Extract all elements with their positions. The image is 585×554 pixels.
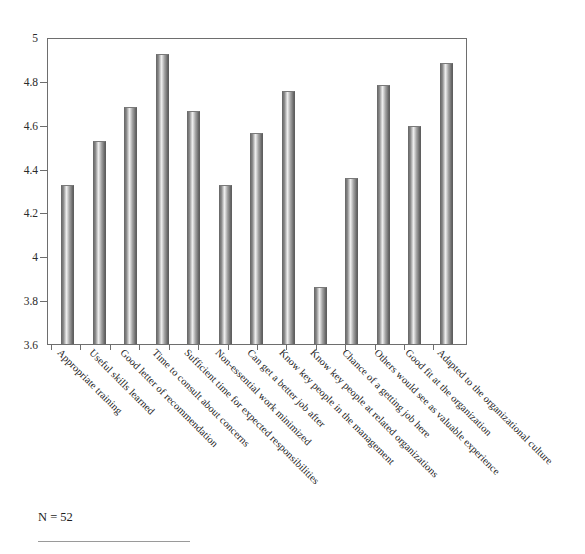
y-axis-tick-label: 4.6 (24, 119, 38, 133)
bar-slot (336, 39, 368, 344)
bars-layer (48, 39, 466, 344)
y-axis-tick-label: 4 (32, 250, 38, 264)
bar (345, 178, 358, 344)
bar-slot (210, 39, 242, 344)
x-axis-category-label: Know key people in the management (277, 347, 397, 467)
bar-slot (241, 39, 273, 344)
bar (124, 107, 137, 344)
bar-slot (304, 39, 336, 344)
bar (282, 91, 295, 344)
bar-slot (147, 39, 179, 344)
bar-chart-figure: 3.63.844.24.44.64.85 Appropriate trainin… (0, 0, 585, 554)
x-axis-labels: Appropriate trainingUseful skills learne… (47, 347, 527, 522)
bar (314, 287, 327, 344)
bar (250, 133, 263, 344)
bar (156, 54, 169, 344)
bar (440, 63, 453, 344)
y-axis-tick-mark (40, 301, 47, 302)
bar-slot (399, 39, 431, 344)
y-axis-tick-mark (40, 82, 47, 83)
y-axis-tick-mark (40, 213, 47, 214)
bar-slot (52, 39, 84, 344)
y-axis-tick-mark (40, 170, 47, 171)
x-axis-category-label: Adapted to the organizational culture (435, 347, 555, 467)
y-axis-tick-label: 3.8 (24, 294, 38, 308)
y-axis-tick-label: 3.6 (24, 338, 38, 352)
bar (408, 126, 421, 344)
bar (61, 185, 74, 344)
bar-slot (273, 39, 305, 344)
y-axis-tick-label: 4.4 (24, 163, 38, 177)
y-axis-tick-mark (40, 257, 47, 258)
plot-area (47, 38, 467, 345)
footer-divider (38, 541, 190, 542)
y-axis-tick-mark (40, 126, 47, 127)
bar (93, 141, 106, 344)
bar-slot (115, 39, 147, 344)
sample-size-note: N = 52 (38, 510, 73, 525)
bar-slot (367, 39, 399, 344)
bar-slot (84, 39, 116, 344)
y-axis-tick-label: 5 (32, 31, 38, 45)
bar-slot (178, 39, 210, 344)
y-axis-tick-label: 4.2 (24, 206, 38, 220)
bar (187, 111, 200, 344)
bar (219, 185, 232, 344)
bar-slot (430, 39, 462, 344)
y-axis: 3.63.844.24.44.64.85 (0, 30, 47, 360)
bar (377, 85, 390, 344)
y-axis-tick-label: 4.8 (24, 75, 38, 89)
